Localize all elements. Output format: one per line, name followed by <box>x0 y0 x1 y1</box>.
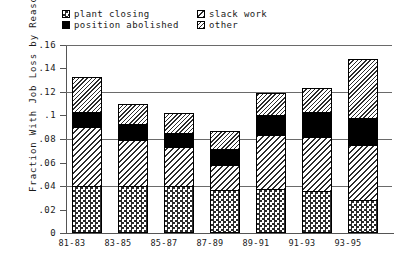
bar-segment-position-abolished <box>210 149 240 165</box>
x-tick-label-85-87: 85-87 <box>142 238 186 248</box>
legend-item-slack-work: slack work <box>197 9 267 19</box>
bar-91-93 <box>302 88 332 233</box>
legend-label: slack work <box>209 9 267 19</box>
y-tick-label: .08 <box>39 134 56 144</box>
x-tick-label-89-91: 89-91 <box>234 238 278 248</box>
bar-segment-other <box>348 59 378 118</box>
bar-segment-position-abolished <box>164 133 194 147</box>
bar-segment-plant-closing <box>118 186 148 233</box>
x-tick-label-87-89: 87-89 <box>188 238 232 248</box>
y-tick-label: .04 <box>39 181 56 191</box>
bar-segment-plant-closing <box>164 186 194 233</box>
bar-segment-slack-work <box>302 137 332 191</box>
bar-81-83 <box>72 77 102 233</box>
y-tick-label: 0 <box>50 228 56 238</box>
bar-segment-position-abolished <box>118 124 148 140</box>
legend-label: plant closing <box>74 9 150 19</box>
y-tick-label: .06 <box>39 158 56 168</box>
bar-segment-plant-closing <box>256 189 286 233</box>
bar-segment-other <box>118 104 148 124</box>
bar-segment-slack-work <box>210 165 240 190</box>
x-tick-label-81-83: 81-83 <box>50 238 94 248</box>
legend-item-other: other <box>197 20 238 30</box>
legend-label: position abolished <box>74 20 179 30</box>
x-tick-label-93-95: 93-95 <box>326 238 370 248</box>
legend-swatch-checkerboard-icon <box>62 10 70 18</box>
bar-segment-slack-work <box>164 147 194 186</box>
bar-segment-position-abolished <box>302 112 332 137</box>
legend-item-position-abolished: position abolished <box>62 20 179 30</box>
bar-segment-other <box>72 77 102 112</box>
bar-segment-plant-closing <box>210 190 240 233</box>
bar-93-95 <box>348 59 378 233</box>
y-tick-label: .16 <box>39 40 56 50</box>
y-axis-tick-labels: .16 .14 .12 .1 .08 .06 .04 .02 0 <box>20 0 56 259</box>
y-tick-label: .14 <box>39 63 56 73</box>
bar-89-91 <box>256 93 286 233</box>
bar-segment-plant-closing <box>302 191 332 233</box>
legend-swatch-solid-black-icon <box>62 21 70 29</box>
bar-segment-slack-work <box>118 140 148 186</box>
bar-segment-slack-work <box>72 127 102 186</box>
chart-legend: plant closing position abolished slack w… <box>62 9 362 35</box>
legend-label: other <box>209 20 238 30</box>
legend-item-plant-closing: plant closing <box>62 9 150 19</box>
stacked-bar-chart-figure: plant closing position abolished slack w… <box>0 0 400 259</box>
x-axis-line <box>60 233 394 234</box>
bar-segment-other <box>210 131 240 149</box>
x-tick-label-83-85: 83-85 <box>96 238 140 248</box>
bar-83-85 <box>118 104 148 233</box>
y-tick-label: .12 <box>39 87 56 97</box>
bar-segment-other <box>164 113 194 133</box>
bar-segment-other <box>302 88 332 112</box>
y-tick-label: .1 <box>44 110 56 120</box>
bar-segment-slack-work <box>256 135 286 189</box>
gridline <box>66 45 392 46</box>
bar-segment-position-abolished <box>72 112 102 127</box>
legend-swatch-diagonal-hatch-icon <box>197 10 205 18</box>
bar-segment-other <box>256 93 286 115</box>
bar-segment-plant-closing <box>348 200 378 233</box>
bar-segment-slack-work <box>348 145 378 200</box>
bar-85-87 <box>164 113 194 233</box>
y-tick-label: .02 <box>39 205 56 215</box>
bar-segment-plant-closing <box>72 186 102 233</box>
gridline <box>66 92 392 93</box>
bar-segment-position-abolished <box>348 118 378 145</box>
bar-87-89 <box>210 131 240 233</box>
legend-swatch-fine-hatch-icon <box>197 21 205 29</box>
x-tick-label-91-93: 91-93 <box>280 238 324 248</box>
plot-area <box>66 45 392 233</box>
bar-segment-position-abolished <box>256 115 286 135</box>
